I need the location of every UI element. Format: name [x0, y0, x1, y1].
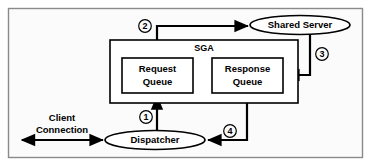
- dispatcher-label: Dispatcher: [130, 134, 179, 145]
- response-queue-label-line1: Response: [225, 63, 270, 74]
- step-marker-4-number: 4: [227, 126, 232, 136]
- sga-label: SGA: [194, 43, 214, 53]
- response-queue-label-line2: Queue: [233, 76, 263, 87]
- client-connection-label-line2: Connection: [36, 124, 88, 135]
- step-marker-2-number: 2: [142, 21, 147, 31]
- shared-server-label: Shared Server: [268, 19, 333, 30]
- step-marker-3-number: 3: [319, 49, 324, 59]
- shared-server-flow-diagram: Shared Server Dispatcher SGA Request Que…: [0, 0, 372, 166]
- request-queue-label-line2: Queue: [143, 76, 173, 87]
- step-marker-1-number: 1: [143, 112, 148, 122]
- client-connection-label-line1: Client: [49, 112, 76, 123]
- diagram-canvas: Shared Server Dispatcher SGA Request Que…: [0, 0, 372, 166]
- request-queue-label-line1: Request: [139, 63, 177, 74]
